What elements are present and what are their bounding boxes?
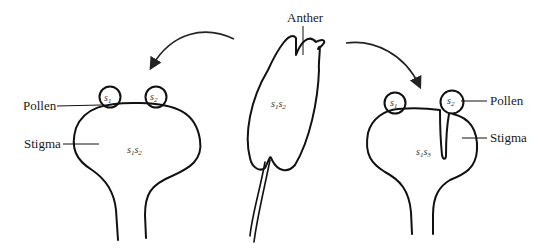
left-stigma-genotype: s1s2	[127, 144, 142, 157]
right-pollen-1-genotype: s1	[390, 97, 397, 110]
anther-outline	[248, 36, 324, 170]
arrow-left-icon	[152, 32, 234, 66]
left-stigma-label: Stigma	[24, 136, 61, 151]
left-pollen-leader	[57, 105, 101, 106]
anther-label: Anther	[287, 10, 324, 25]
left-pollen-2-genotype: s2	[150, 91, 158, 104]
left-pollen-1-genotype: s1	[104, 92, 111, 105]
right-pollen-tube	[440, 111, 449, 159]
right-stigma-label: Stigma	[490, 130, 527, 145]
right-pollen-2-genotype: s2	[447, 95, 455, 108]
right-stigma-genotype: s1s3	[416, 146, 431, 159]
left-pollen-label: Pollen	[23, 98, 57, 113]
arrow-right-icon	[346, 42, 419, 85]
anther-genotype: s1s2	[271, 98, 286, 111]
left-stigma-outline	[74, 103, 201, 240]
left-pistil: s1 s2 s1s2 Pollen Stigma	[23, 87, 200, 241]
right-stigma-outline	[367, 108, 440, 234]
right-pollen-label: Pollen	[490, 93, 524, 108]
anther: s1s2 Anther	[248, 10, 324, 242]
right-pistil: s1 s2 s1s3 Pollen Stigma	[367, 91, 527, 235]
pollination-diagram: s1 s2 s1s2 Pollen Stigma s1s2 Anther s1	[0, 0, 547, 251]
